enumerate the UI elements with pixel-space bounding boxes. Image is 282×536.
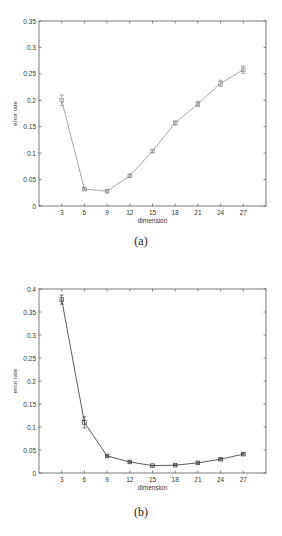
x-tick-label: 24 [217,476,225,483]
y-tick-label: 0.1 [27,150,36,157]
y-tick-label: 0.4 [27,286,36,293]
figure-b: 00.050.10.150.20.250.30.350.436912151821… [0,268,282,536]
y-tick-label: 0.3 [27,332,36,339]
x-axis-label: dimension [138,217,168,224]
y-tick-label: 0.2 [27,97,36,104]
y-tick-label: 0.15 [23,123,36,130]
x-tick-label: 27 [240,476,248,483]
x-tick-label: 21 [194,476,202,483]
x-tick-label: 12 [126,209,134,216]
x-tick-label: 18 [172,209,180,216]
y-tick-label: 0.25 [23,70,36,77]
x-tick-label: 9 [105,209,109,216]
x-tick-label: 3 [60,476,64,483]
x-tick-label: 6 [83,476,87,483]
x-tick-label: 3 [60,209,64,216]
caption-b: (b) [0,505,282,520]
y-tick-label: 0.35 [23,18,36,25]
plot-area [39,21,266,206]
y-tick-label: 0.1 [27,424,36,431]
x-tick-label: 24 [217,209,225,216]
y-tick-label: 0.05 [23,176,36,183]
x-tick-label: 21 [194,209,202,216]
chart-b: 00.050.10.150.20.250.30.350.436912151821… [0,268,282,503]
x-tick-label: 15 [149,476,157,483]
x-tick-label: 15 [149,209,157,216]
y-tick-label: 0.35 [23,309,36,316]
y-tick-label: 0.15 [23,401,36,408]
x-tick-label: 12 [126,476,134,483]
y-tick-label: 0.05 [23,447,36,454]
figure-a: 00.050.10.150.20.250.30.3536912151821242… [0,0,282,270]
chart-a: 00.050.10.150.20.250.30.3536912151821242… [0,0,282,240]
y-axis-label: error rate [12,368,18,393]
plot-area [39,289,266,473]
x-tick-label: 9 [105,476,109,483]
y-tick-label: 0 [32,203,36,210]
x-axis-label: dimension [138,484,168,491]
y-tick-label: 0.3 [27,44,36,51]
y-tick-label: 0 [32,470,36,477]
x-tick-label: 6 [83,209,87,216]
y-axis-label: error rate [12,101,18,126]
y-tick-label: 0.2 [27,378,36,385]
x-tick-label: 18 [172,476,180,483]
y-tick-label: 0.25 [23,355,36,362]
x-tick-label: 27 [240,209,248,216]
caption-a: (a) [0,234,282,249]
